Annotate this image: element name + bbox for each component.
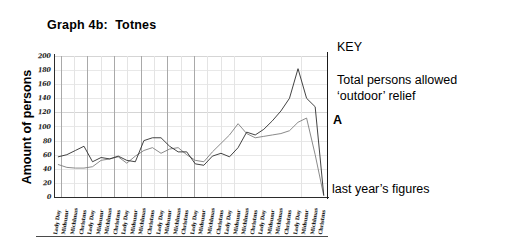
key-pointer-label: A (333, 113, 342, 127)
x-tick-label: Midsumr (300, 210, 309, 235)
x-tick-label: Midsumr (163, 210, 172, 235)
x-tick-label: Michlmas (69, 208, 79, 235)
y-axis-tick-labels: 200180160140120100806040200 (24, 56, 51, 197)
x-tick-label: Christms (283, 210, 292, 235)
y-tick-label: 200 (38, 52, 51, 60)
y-tick-label: 20 (42, 179, 51, 187)
x-tick-label: Christms (146, 210, 155, 235)
x-tick-label: Michlmas (206, 208, 216, 235)
x-tick-label: Lady Day (223, 210, 232, 235)
page-title: Graph 4b: Totnes (47, 18, 156, 32)
series-lines (54, 56, 330, 199)
series-line (58, 118, 323, 196)
x-tick-label: Christms (317, 210, 326, 235)
y-axis-line (54, 54, 55, 197)
plot-right-edge-line (327, 52, 328, 199)
series-line (58, 69, 323, 195)
plot-area (54, 56, 328, 197)
y-tick-label: 80 (42, 136, 51, 144)
x-axis-tick-labels: Lady DayMidsumrMichlmasChristmsLady DayM… (54, 199, 330, 235)
x-tick-label: Lady Day (86, 210, 95, 235)
key-series1-line1: Total persons allowed (337, 73, 457, 87)
key-series1-line2: ‘outdoor’ relief (337, 89, 416, 103)
y-tick-label: 60 (42, 151, 51, 159)
bottom-rule (36, 236, 328, 237)
key-heading: KEY (337, 40, 362, 54)
x-axis-line (54, 197, 329, 198)
y-tick-label: 40 (42, 165, 51, 173)
y-tick-label: 140 (38, 94, 51, 102)
y-tick-label: 100 (38, 122, 51, 130)
y-tick-label: 0 (47, 193, 52, 201)
y-tick-label: 160 (38, 80, 51, 88)
key-series2-label: last year’s figures (332, 182, 430, 196)
y-tick-label: 180 (38, 66, 51, 74)
graph-figure: Graph 4b: Totnes Amount of persons 20018… (0, 0, 506, 247)
x-tick-label: Christms (180, 210, 189, 235)
y-tick-label: 120 (38, 108, 51, 116)
